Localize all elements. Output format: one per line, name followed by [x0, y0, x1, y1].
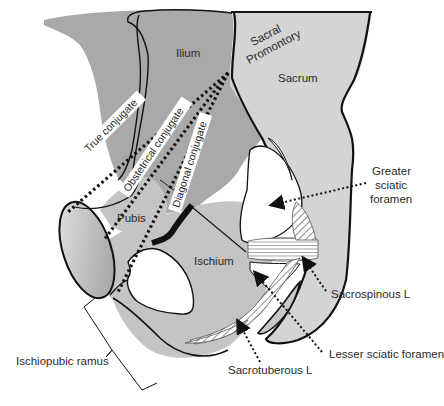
sacrospinous-ligament[interactable]	[248, 238, 318, 261]
sacrospinous-label: Sacrospinous L	[331, 288, 411, 300]
greater-sciatic-label-line3: foramen	[370, 193, 412, 205]
pubis-label: Pubis	[117, 212, 146, 224]
greater-sciatic-label-line2: sciatic	[375, 179, 407, 191]
ischium-label: Ischium	[194, 255, 234, 267]
pelvis-diagram: True conjugate Obstetrical conjugate Dia…	[0, 0, 444, 406]
lesser-sciatic-label: Lesser sciatic foramen	[329, 348, 444, 360]
ischiopubic-ramus-label: Ischiopubic ramus	[16, 355, 109, 367]
sacrotuberous-label: Sacrotuberous L	[228, 364, 313, 376]
ilium-label: Ilium	[176, 47, 200, 59]
sacrum-label: Sacrum	[278, 72, 318, 84]
greater-sciatic-label-line1: Greater	[372, 165, 411, 177]
